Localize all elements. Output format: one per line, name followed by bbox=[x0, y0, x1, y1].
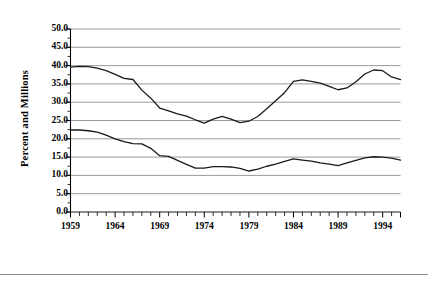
x-tick-label: 1994 bbox=[361, 222, 405, 232]
x-tick-label: 1969 bbox=[138, 222, 182, 232]
footer-divider bbox=[0, 274, 428, 275]
x-axis-tick-labels: 19591964196919741979198419891994 bbox=[0, 0, 428, 282]
x-tick-label: 1989 bbox=[316, 222, 360, 232]
x-tick-label: 1974 bbox=[182, 222, 226, 232]
figure-container: Percent and Millions 50.045.040.035.030.… bbox=[0, 0, 428, 282]
x-tick-label: 1959 bbox=[49, 222, 93, 232]
x-tick-label: 1964 bbox=[93, 222, 137, 232]
x-tick-label: 1984 bbox=[271, 222, 315, 232]
x-tick-label: 1979 bbox=[227, 222, 271, 232]
